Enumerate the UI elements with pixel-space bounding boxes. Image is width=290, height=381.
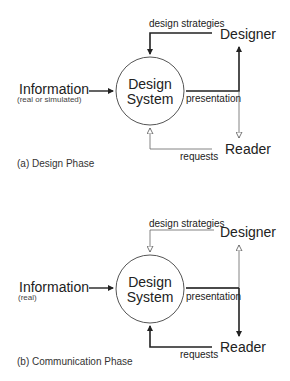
- presentation-to-designer: [186, 47, 239, 91]
- edge-label-presentation: presentation: [186, 94, 241, 104]
- reader-label: Reader: [220, 340, 266, 354]
- edge-label-requests: requests: [180, 350, 218, 360]
- edge-label-presentation: presentation: [186, 292, 241, 302]
- information-sublabel: (real): [18, 294, 37, 302]
- information-label: Information: [19, 280, 89, 294]
- edge-label-strategies: design strategies: [149, 19, 225, 29]
- information-label: Information: [19, 82, 89, 96]
- diagram-canvas: [0, 0, 290, 381]
- presentation-to-designer: [186, 245, 239, 288]
- caption-b: (b) Communication Phase: [17, 357, 133, 367]
- edge-label-strategies: design strategies: [149, 219, 225, 229]
- design-system-label: Design System: [115, 77, 185, 107]
- designer-label: Designer: [220, 27, 276, 41]
- information-sublabel: (real or simulated): [17, 96, 81, 104]
- strategies-arrow: [150, 33, 212, 54]
- edge-label-requests: requests: [180, 152, 218, 162]
- designer-label: Designer: [220, 225, 276, 239]
- requests-arrow: [150, 128, 212, 149]
- requests-arrow: [150, 326, 212, 347]
- caption-a: (a) Design Phase: [17, 159, 94, 169]
- strategies-arrow: [150, 230, 214, 252]
- design-system-label: Design System: [115, 275, 185, 305]
- reader-label: Reader: [225, 142, 271, 156]
